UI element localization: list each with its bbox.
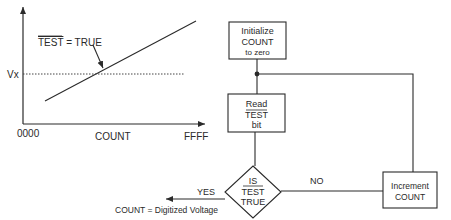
y-axis-label-vx: Vx <box>7 69 19 80</box>
x-min-label: 0000 <box>17 128 40 139</box>
annotation-test-true: TEST = TRUE <box>38 36 102 48</box>
flowchart: Initialize COUNT to zero Read TEST bit I… <box>115 22 437 218</box>
annotation-equals-true: = TRUE <box>63 37 102 48</box>
increment-box-line2: COUNT <box>395 192 425 202</box>
decision-line2: TEST <box>241 187 265 197</box>
no-label: NO <box>310 176 324 186</box>
decision-line1: IS <box>249 176 258 186</box>
init-box-line3: to zero <box>245 48 270 57</box>
read-box-line2: TEST <box>245 110 269 120</box>
decision-line3: TRUE <box>241 197 266 207</box>
annotation-test-overbar: TEST <box>38 37 63 48</box>
x-axis-label: COUNT <box>95 131 131 142</box>
init-box-line1: Initialize <box>241 26 274 36</box>
ramp-line <box>45 21 196 101</box>
result-label: COUNT = Digitized Voltage <box>115 205 218 215</box>
ramp-graph: Vx 0000 COUNT FFFF TEST = TRUE <box>7 7 208 142</box>
read-box-line1: Read <box>246 99 268 109</box>
diagram-canvas: Vx 0000 COUNT FFFF TEST = TRUE Initializ… <box>0 0 451 220</box>
increment-box-line1: Increment <box>391 181 429 191</box>
yes-label: YES <box>197 187 215 197</box>
svg-text:TEST = TRUE: TEST = TRUE <box>38 37 102 48</box>
read-box-line3: bit <box>252 120 262 130</box>
init-box-line2: COUNT <box>242 37 274 47</box>
x-max-label: FFFF <box>184 131 208 142</box>
annotation-arrow <box>93 45 103 68</box>
